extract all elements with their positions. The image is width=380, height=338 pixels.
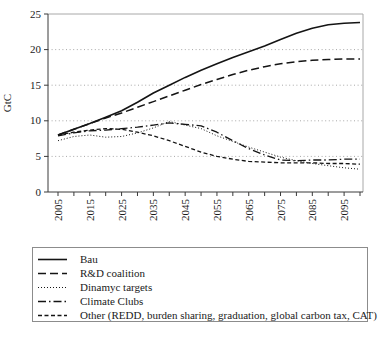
legend-line-sample-dinamyc-targets [36,281,69,294]
chart-legend: Bau R&D coalition Dinamyc targets Climat… [32,247,368,322]
legend-line-sample-climate-clubs [36,295,69,308]
emissions-line-chart: 0510152025200520152025203520452055206520… [0,0,380,240]
emissions-chart-figure: 0510152025200520152025203520452055206520… [0,0,380,338]
y-tick-label: 10 [30,114,42,126]
y-axis-title: GtC [1,94,13,112]
y-tick-label: 5 [36,150,42,162]
legend-item-climate-clubs: Climate Clubs [36,294,365,308]
x-tick-label: 2025 [116,199,128,222]
series-line-rd-coalition [58,59,360,135]
x-tick-label: 2045 [179,199,191,222]
x-tick-label: 2035 [147,199,159,222]
legend-item-dinamyc-targets: Dinamyc targets [36,280,365,294]
legend-label-dinamyc-targets: Dinamyc targets [80,280,152,294]
x-tick-label: 2005 [52,199,64,222]
legend-label-bau: Bau [80,252,98,266]
axis-tick-labels: 0510152025200520152025203520452055206520… [30,8,350,222]
x-tick-label: 2065 [243,199,255,222]
legend-label-climate-clubs: Climate Clubs [80,294,143,308]
x-tick-label: 2015 [84,199,96,222]
x-tick-label: 2055 [211,199,223,222]
legend-line-sample-other [36,309,69,322]
legend-item-other: Other (REDD, burden sharing, graduation,… [36,308,365,322]
gridlines [48,50,363,157]
legend-line-sample-rd-coalition [36,267,69,280]
series-line-other [58,129,360,165]
y-tick-label: 25 [30,8,42,20]
x-tick-label: 2085 [306,199,318,222]
x-tick-label: 2095 [338,199,350,222]
legend-item-bau: Bau [36,252,365,266]
legend-label-rd-coalition: R&D coalition [80,266,145,280]
legend-item-rd-coalition: R&D coalition [36,266,365,280]
axes [44,14,363,196]
y-tick-label: 0 [36,186,42,198]
y-tick-label: 15 [30,79,42,91]
legend-label-other: Other (REDD, burden sharing, graduation,… [80,308,377,322]
x-tick-label: 2075 [275,199,287,222]
legend-line-sample-bau [36,253,69,266]
y-tick-label: 20 [30,43,42,55]
series-lines [58,23,360,170]
